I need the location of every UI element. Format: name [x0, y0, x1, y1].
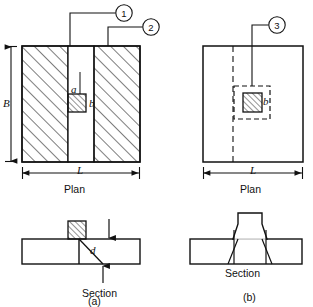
dimension-L-a-label: L	[77, 165, 83, 175]
plan-a-left-hatched-region	[22, 46, 68, 162]
callout-2-label: 2	[145, 23, 157, 33]
engineering-figure	[0, 0, 313, 307]
plan-a-label-b: b	[89, 98, 95, 108]
plan-b-caption: Plan	[240, 184, 261, 194]
callout-3-label: 3	[271, 21, 283, 31]
panel-a-figure-caption: (a)	[88, 296, 101, 306]
plan-b-column-section	[243, 93, 262, 112]
panel-a-plan	[22, 46, 140, 162]
plan-b-label-b: b	[263, 96, 269, 106]
panel-b-plan	[203, 46, 303, 162]
section-b-caption: Section	[225, 268, 260, 278]
dimension-B-label: B	[3, 98, 10, 108]
callout-1-label: 1	[118, 9, 130, 19]
plan-a-label-a: a	[71, 84, 77, 94]
panel-a-section	[22, 219, 140, 283]
panel-b-section	[190, 213, 302, 264]
section-a-slab	[22, 239, 140, 264]
section-a-label-d: d	[90, 245, 96, 255]
callout-2-leader	[108, 27, 143, 46]
section-a-column	[68, 221, 86, 239]
panel-b-figure-caption: (b)	[243, 292, 256, 302]
callout-1-leader	[70, 13, 116, 46]
dimension-L-b-label: L	[250, 165, 256, 175]
section-b-slab	[190, 239, 302, 264]
plan-a-caption: Plan	[64, 184, 85, 194]
section-b-column-capital	[233, 213, 267, 239]
plan-a-right-hatched-region	[94, 46, 140, 162]
plan-a-column-section	[68, 94, 86, 112]
